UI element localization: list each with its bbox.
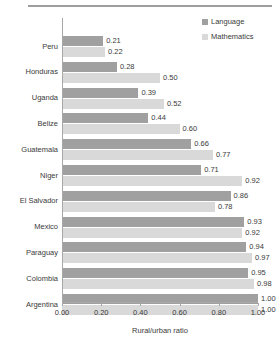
bar-value-label: 0.50 [160,73,178,83]
x-axis-tick-label: 0.60 [172,308,187,317]
bar-mathematics-argentina[interactable] [62,305,258,315]
bar-mathematics-colombia[interactable] [62,279,254,289]
bar-value-label: 0.95 [248,268,266,278]
chart-category-row: Niger0.710.92 [0,165,278,186]
category-label-peru: Peru [0,43,58,51]
bar-value-label: 0.77 [213,150,231,160]
bar-language-peru[interactable] [62,36,103,46]
bar-language-paraguay[interactable] [62,242,246,252]
category-label-mexico: Mexico [0,223,58,231]
bar-value-label: 0.52 [164,99,182,109]
bar-language-guatemala[interactable] [62,139,191,149]
category-label-paraguay: Paraguay [0,249,58,257]
chart-category-row: Belize0.440.60 [0,113,278,134]
y-axis-line [62,18,63,302]
chart-category-row: Colombia0.950.98 [0,268,278,289]
x-axis-tick-label: 1.00 [251,308,266,317]
category-label-belize: Belize [0,120,58,128]
bar-value-label: 0.28 [117,62,135,72]
bar-mathematics-honduras[interactable] [62,73,160,83]
x-axis-tick-mark [140,303,141,306]
bar-mathematics-belize[interactable] [62,124,180,134]
bar-value-label: 0.21 [103,36,121,46]
bar-language-uganda[interactable] [62,88,138,98]
category-label-el-salvador: El Salvador [0,197,58,205]
bar-value-label: 0.93 [244,217,262,227]
bar-value-label: 0.71 [201,165,219,175]
bar-value-label: 0.92 [242,176,260,186]
bar-value-label: 1.00 [258,294,276,304]
bar-mathematics-uganda[interactable] [62,99,164,109]
x-axis-tick-mark [258,303,259,306]
category-label-niger: Niger [0,172,58,180]
bar-language-mexico[interactable] [62,217,244,227]
x-axis-title: Rural/urban ratio [62,326,258,335]
chart-plot-area: Peru0.210.22Honduras0.280.50Uganda0.390.… [0,18,278,310]
bar-language-niger[interactable] [62,165,201,175]
bar-language-el-salvador[interactable] [62,191,231,201]
bar-language-colombia[interactable] [62,268,248,278]
category-label-honduras: Honduras [0,68,58,76]
bar-value-label: 0.22 [105,47,123,57]
bar-value-label: 0.97 [252,253,270,263]
bar-mathematics-peru[interactable] [62,47,105,57]
bar-value-label: 0.92 [242,228,260,238]
category-label-guatemala: Guatemala [0,146,58,154]
chart-category-row: Peru0.210.22 [0,36,278,57]
bar-language-belize[interactable] [62,113,148,123]
bar-mathematics-mexico[interactable] [62,228,242,238]
chart-category-row: Honduras0.280.50 [0,62,278,83]
x-axis-tick-mark [180,303,181,306]
x-axis-tick-mark [219,303,220,306]
bar-value-label: 0.60 [180,124,198,134]
category-label-uganda: Uganda [0,94,58,102]
category-label-colombia: Colombia [0,275,58,283]
bar-mathematics-el-salvador[interactable] [62,202,215,212]
x-axis-tick-mark [62,303,63,306]
chart-category-row: Paraguay0.940.97 [0,242,278,263]
x-axis-line [62,302,258,303]
x-axis-tick-label: 0.20 [94,308,109,317]
x-axis-tick-label: 0.40 [133,308,148,317]
bar-mathematics-paraguay[interactable] [62,253,252,263]
top-divider-rule [28,5,272,7]
x-axis-tick-label: 0.00 [55,308,70,317]
bar-value-label: 0.66 [191,139,209,149]
bar-value-label: 0.98 [254,279,272,289]
bar-value-label: 0.86 [231,191,249,201]
bar-value-label: 0.44 [148,113,166,123]
x-axis-tick-label: 0.80 [211,308,226,317]
bar-language-honduras[interactable] [62,62,117,72]
bar-value-label: 0.39 [138,88,156,98]
bar-value-label: 0.78 [215,202,233,212]
chart-category-row: Mexico0.930.92 [0,217,278,238]
category-label-argentina: Argentina [0,301,58,309]
bar-value-label: 0.94 [246,242,264,252]
x-axis-tick-mark [101,303,102,306]
bar-mathematics-guatemala[interactable] [62,150,213,160]
chart-category-row: El Salvador0.860.78 [0,191,278,212]
bar-mathematics-niger[interactable] [62,176,242,186]
chart-category-row: Guatemala0.660.77 [0,139,278,160]
chart-category-row: Uganda0.390.52 [0,88,278,109]
